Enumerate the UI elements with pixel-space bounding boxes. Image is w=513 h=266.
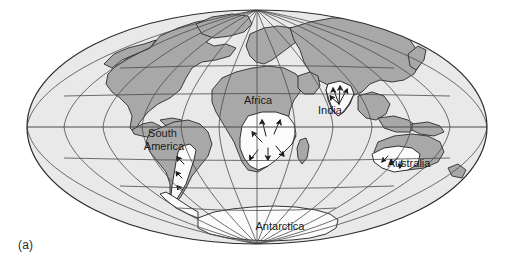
label-australia: Australia [388, 157, 432, 169]
label-south-america-line2: America [144, 140, 185, 152]
label-south-america-line1: South [148, 127, 177, 139]
label-antarctica: Antarctica [256, 220, 306, 232]
gondwana-glaciation-map-figure: Africa India South America Australia Ant… [0, 0, 513, 266]
world-map-mollweide: Africa India South America Australia Ant… [0, 0, 513, 266]
label-india: India [318, 104, 343, 116]
label-africa: Africa [244, 94, 273, 106]
label-south-america: South America [144, 127, 185, 152]
figure-caption-label: (a) [18, 238, 33, 252]
